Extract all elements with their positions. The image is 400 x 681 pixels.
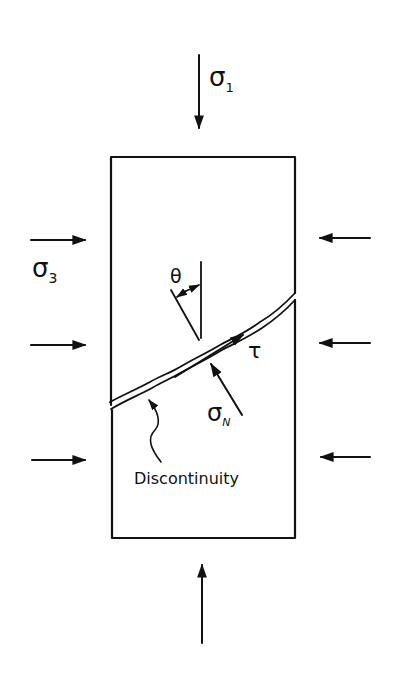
tau-label: τ bbox=[248, 338, 261, 363]
theta-label: θ bbox=[170, 265, 182, 287]
sigma3-label: σ3 bbox=[32, 253, 57, 286]
sigmaN-label: σN bbox=[207, 399, 230, 429]
rock-specimen-diagram: σ1 σ3 θ τ σN Discontinuity bbox=[0, 0, 400, 681]
discontinuity-plane bbox=[110, 293, 295, 409]
tau-arrow bbox=[175, 335, 243, 377]
sigma3-arrows-right bbox=[320, 238, 370, 457]
discontinuity-label: Discontinuity bbox=[134, 469, 239, 488]
sigma1-label: σ1 bbox=[209, 62, 234, 95]
discontinuity-leader bbox=[149, 400, 161, 462]
